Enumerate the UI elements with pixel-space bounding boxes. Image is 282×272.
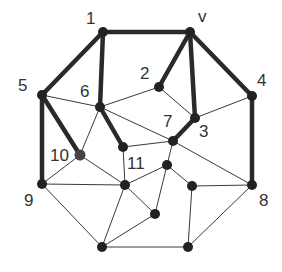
node-label-10: 10 bbox=[50, 146, 69, 165]
edge-a-d bbox=[125, 185, 155, 214]
node-label-2: 2 bbox=[140, 64, 149, 83]
node-5 bbox=[37, 90, 47, 100]
node-f bbox=[183, 242, 193, 252]
edge-9-e bbox=[42, 184, 102, 247]
edge-7-11 bbox=[123, 141, 173, 147]
node-label-1: 1 bbox=[86, 9, 95, 28]
thick-edge-v-4 bbox=[190, 32, 252, 96]
edge-10-a bbox=[80, 155, 125, 185]
edge-3-4 bbox=[195, 96, 252, 118]
edge-c-f bbox=[188, 186, 192, 247]
edge-11-a bbox=[123, 147, 125, 185]
node-b bbox=[162, 160, 172, 170]
node-2 bbox=[154, 82, 164, 92]
thick-edge-1-5 bbox=[42, 32, 103, 95]
edge-d-e bbox=[102, 214, 155, 247]
thick-edge-v-2 bbox=[159, 32, 190, 87]
node-1 bbox=[98, 27, 108, 37]
node-10 bbox=[75, 150, 86, 161]
node-6 bbox=[95, 102, 105, 112]
thin-edges bbox=[42, 87, 252, 247]
node-c bbox=[187, 181, 197, 191]
node-11 bbox=[118, 142, 128, 152]
node-7 bbox=[168, 136, 178, 146]
edge-7-8 bbox=[173, 141, 252, 185]
graph-diagram: 1v562437101198 bbox=[0, 0, 282, 272]
edge-b-d bbox=[155, 165, 167, 214]
node-label-6: 6 bbox=[80, 82, 89, 101]
edge-6-10 bbox=[80, 107, 100, 155]
thick-edge-v-3 bbox=[190, 32, 195, 118]
node-label-11: 11 bbox=[127, 154, 145, 173]
thick-edge-1-6 bbox=[100, 32, 103, 107]
edge-9-a bbox=[42, 184, 125, 185]
node-9 bbox=[37, 179, 47, 189]
node-label-5: 5 bbox=[18, 76, 27, 95]
edge-6-2 bbox=[100, 87, 159, 107]
edge-c-8 bbox=[192, 185, 252, 186]
node-label-4: 4 bbox=[257, 71, 266, 90]
node-labels: 1v562437101198 bbox=[18, 7, 268, 210]
node-label-7: 7 bbox=[163, 112, 172, 131]
edge-a-e bbox=[102, 185, 125, 247]
node-label-9: 9 bbox=[24, 191, 33, 210]
node-e bbox=[97, 242, 107, 252]
node-8 bbox=[247, 180, 257, 190]
node-a bbox=[120, 180, 130, 190]
node-label-3: 3 bbox=[199, 122, 208, 141]
node-v bbox=[185, 27, 195, 37]
node-label-8: 8 bbox=[259, 191, 268, 210]
node-label-v: v bbox=[198, 7, 207, 26]
edge-8-f bbox=[188, 185, 252, 247]
node-4 bbox=[247, 91, 257, 101]
thick-edge-6-11 bbox=[100, 107, 123, 147]
node-d bbox=[150, 209, 160, 219]
